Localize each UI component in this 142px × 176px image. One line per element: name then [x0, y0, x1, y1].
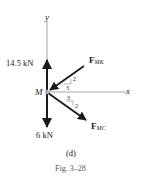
fmc-slope-run: 3 [67, 95, 70, 101]
origin-label: M [35, 88, 43, 97]
x-axis-label: x [126, 87, 130, 96]
force-label-up: 14.5 kN [6, 59, 33, 68]
fmk-subscript: MK [95, 59, 104, 65]
y-axis-label: y [45, 13, 49, 22]
fmc-subscript: MC [97, 125, 106, 131]
slope-triangle-fmc [66, 101, 73, 106]
fmk-slope-run: 3 [66, 85, 69, 91]
fmc-slope-rise: 2 [75, 103, 78, 109]
force-label-fmk: FMK [89, 56, 104, 65]
part-label: (d) [66, 149, 76, 158]
figure-caption: Fig. 3–28 [55, 165, 86, 173]
force-label-fmc: FMC [91, 122, 106, 131]
origin-point [45, 90, 49, 94]
fmk-slope-rise: 2 [73, 76, 76, 82]
force-label-down: 6 kN [36, 131, 53, 140]
